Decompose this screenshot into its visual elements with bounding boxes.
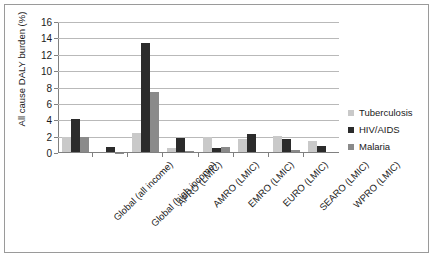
bar-group (128, 22, 163, 153)
bar-group (199, 22, 234, 153)
y-tick-label: 16 (41, 17, 52, 28)
y-tick-label: 14 (41, 33, 52, 44)
y-tick-label: 12 (41, 49, 52, 60)
y-tick-label: 6 (46, 98, 52, 109)
legend-swatch-icon (348, 144, 354, 150)
bar (150, 92, 159, 153)
bar (62, 137, 71, 153)
bar-group (163, 22, 198, 153)
legend-label: Tuberculosis (359, 107, 413, 118)
bar (273, 136, 282, 153)
bar (282, 139, 291, 153)
plot-area: 0246810121416 (58, 22, 339, 153)
legend-item: HIV/AIDS (348, 121, 428, 138)
bar-group (234, 22, 269, 153)
bar-group (93, 22, 128, 153)
bar (80, 137, 89, 153)
bar (176, 138, 185, 153)
chart-legend: TuberculosisHIV/AIDSMalaria (348, 104, 428, 155)
legend-item: Malaria (348, 138, 428, 155)
legend-label: Malaria (359, 141, 390, 152)
bar (238, 139, 247, 153)
bar (71, 119, 80, 153)
y-tick-label: 2 (46, 131, 52, 142)
bar-group (269, 22, 304, 153)
y-tick-label: 8 (46, 82, 52, 93)
y-tick-label: 0 (46, 148, 52, 159)
bar (247, 134, 256, 153)
y-tick-label: 4 (46, 115, 52, 126)
y-axis-title: All cause DALY burden (%) (16, 0, 30, 139)
bar (132, 133, 141, 153)
x-axis-labels: Global (all income)Global (high income)A… (58, 153, 339, 249)
legend-label: HIV/AIDS (359, 124, 400, 135)
legend-item: Tuberculosis (348, 104, 428, 121)
bar-group (304, 22, 339, 153)
y-tick-label: 10 (41, 66, 52, 77)
chart-figure: All cause DALY burden (%) 0246810121416 … (0, 0, 433, 257)
legend-swatch-icon (348, 110, 354, 116)
legend-swatch-icon (348, 127, 354, 133)
bar (141, 43, 150, 153)
bar-group (58, 22, 93, 153)
bar-groups (58, 22, 339, 153)
bar (203, 137, 212, 153)
